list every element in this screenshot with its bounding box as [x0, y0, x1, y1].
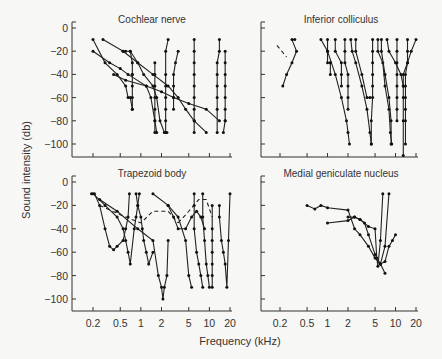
data-point: [153, 96, 156, 99]
data-point: [371, 61, 374, 64]
series-line: [380, 235, 395, 264]
data-point: [394, 233, 397, 236]
data-point: [104, 61, 107, 64]
data-point: [108, 245, 111, 248]
data-point: [203, 239, 206, 242]
data-point: [190, 286, 193, 289]
data-point: [374, 253, 377, 256]
data-point: [177, 227, 180, 230]
data-point: [205, 108, 208, 111]
data-point: [92, 50, 95, 53]
data-point: [164, 96, 167, 99]
data-point: [415, 38, 418, 41]
series-line: [351, 40, 371, 144]
data-point: [142, 239, 145, 242]
data-point: [376, 50, 379, 53]
data-point: [151, 251, 154, 254]
y-tick-label: −40: [50, 68, 68, 80]
data-point: [160, 90, 163, 93]
data-point: [135, 216, 138, 219]
data-point: [216, 108, 219, 111]
data-point: [379, 239, 382, 242]
data-point: [193, 131, 196, 134]
data-point: [172, 73, 175, 76]
data-point: [193, 192, 196, 195]
x-tick-label: 1: [138, 317, 144, 329]
data-point: [224, 262, 227, 265]
data-point: [290, 61, 293, 64]
data-point: [193, 38, 196, 41]
data-point: [386, 38, 389, 41]
data-point: [216, 131, 219, 134]
series-line: [103, 40, 167, 133]
data-point: [142, 73, 145, 76]
data-point: [347, 216, 350, 219]
data-point: [131, 108, 134, 111]
panel-title: Trapezoid body: [118, 168, 187, 179]
data-point: [136, 227, 139, 230]
data-point: [201, 192, 204, 195]
data-point: [227, 239, 230, 242]
data-point: [193, 85, 196, 88]
data-point: [216, 85, 219, 88]
data-point: [218, 119, 221, 122]
data-point: [224, 119, 227, 122]
y-tick-label: −80: [50, 270, 68, 282]
data-point: [353, 216, 356, 219]
data-point: [122, 50, 125, 53]
data-point: [187, 102, 190, 105]
data-point: [184, 108, 187, 111]
x-tick-label: 5: [372, 317, 378, 329]
data-point: [376, 265, 379, 268]
panel-top-right: Inferior colliculus: [261, 14, 418, 157]
series-line: [93, 51, 157, 132]
data-point: [343, 61, 346, 64]
data-point: [124, 239, 127, 242]
data-point: [184, 227, 187, 230]
data-point: [374, 227, 377, 230]
data-point: [326, 221, 329, 224]
data-point: [395, 85, 398, 88]
panel-title: Inferior colliculus: [304, 14, 378, 25]
x-tick-label: 2: [345, 317, 351, 329]
data-point: [153, 73, 156, 76]
series-line: [283, 40, 297, 86]
data-point: [211, 204, 214, 207]
data-point: [151, 239, 154, 242]
data-point: [406, 38, 409, 41]
data-point: [347, 219, 350, 222]
data-point: [131, 96, 134, 99]
data-point: [395, 108, 398, 111]
data-point: [187, 274, 190, 277]
data-point: [161, 298, 164, 301]
data-point: [404, 119, 407, 122]
data-point: [367, 233, 370, 236]
data-point: [229, 192, 232, 195]
data-point: [380, 38, 383, 41]
x-tick-label: 20: [224, 317, 236, 329]
data-point: [224, 73, 227, 76]
y-tick-label: −100: [44, 138, 68, 150]
data-point: [193, 96, 196, 99]
data-point: [281, 85, 284, 88]
data-point: [224, 85, 227, 88]
axis-lines: [261, 176, 418, 311]
figure-canvas: Cochlear nerve0−20−40−60−80−100Inferior …: [0, 0, 442, 359]
data-point: [172, 96, 175, 99]
data-point: [367, 225, 370, 228]
data-point: [167, 239, 170, 242]
data-point: [211, 239, 214, 242]
data-point: [193, 50, 196, 53]
data-point: [371, 50, 374, 53]
data-point: [383, 272, 386, 275]
data-point: [340, 85, 343, 88]
data-point: [116, 216, 119, 219]
panel-title: Cochlear nerve: [118, 14, 186, 25]
data-point: [197, 262, 200, 265]
data-point: [306, 204, 309, 207]
data-point: [128, 192, 131, 195]
data-point: [285, 73, 288, 76]
data-point: [353, 227, 356, 230]
data-point: [199, 274, 202, 277]
data-point: [395, 50, 398, 53]
